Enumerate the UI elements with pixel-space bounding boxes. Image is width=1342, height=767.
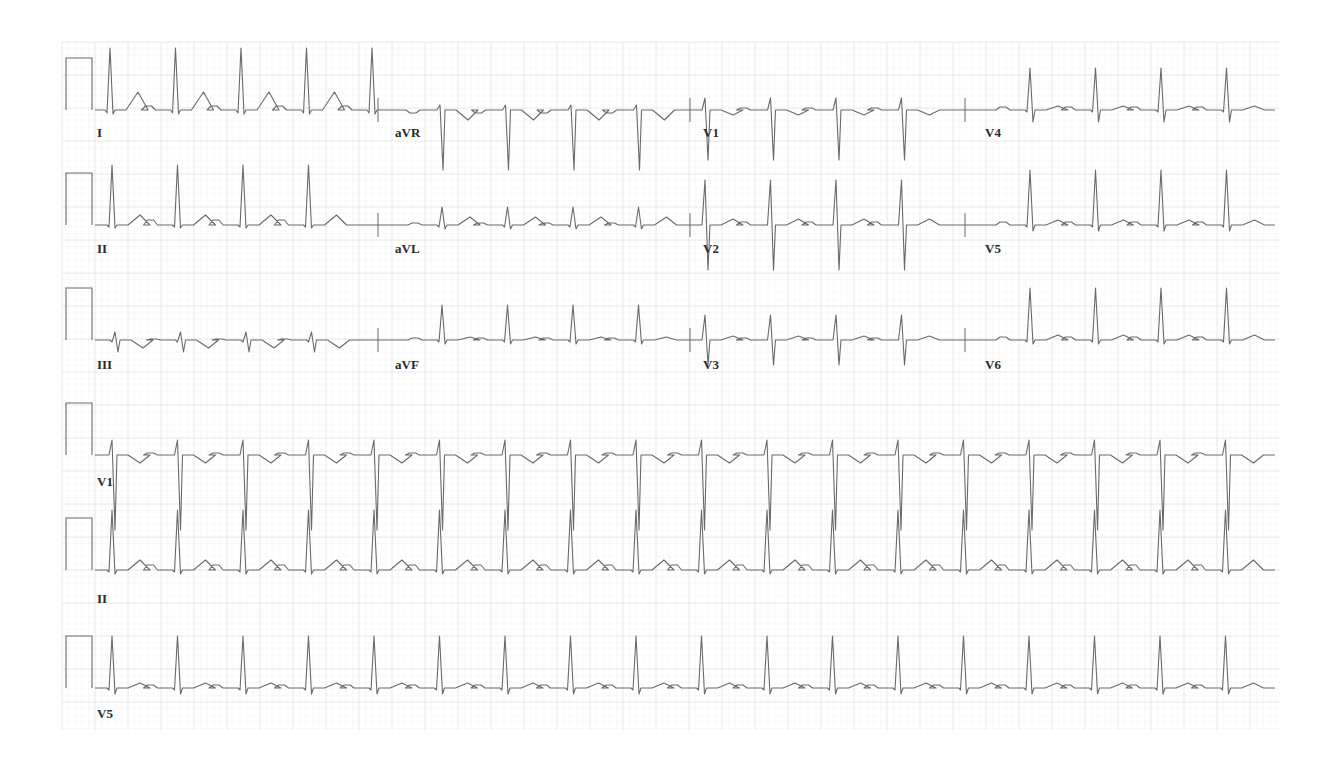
lead-trace-ii bbox=[95, 165, 378, 228]
calibration-pulse bbox=[66, 403, 92, 455]
lead-label: III bbox=[97, 357, 112, 373]
lead-label: V4 bbox=[985, 125, 1001, 141]
lead-trace-iii bbox=[95, 332, 378, 352]
lead-label: V3 bbox=[703, 357, 719, 373]
lead-label: aVR bbox=[395, 125, 420, 141]
calibration-pulses bbox=[66, 58, 92, 688]
calibration-pulse bbox=[66, 636, 92, 688]
lead-label: V1 bbox=[703, 125, 719, 141]
lead-label: II bbox=[97, 241, 107, 257]
lead-label: II bbox=[97, 591, 107, 607]
lead-label: aVF bbox=[395, 357, 419, 373]
lead-label: V6 bbox=[985, 357, 1001, 373]
lead-trace-i bbox=[95, 48, 378, 114]
lead-label: V5 bbox=[97, 706, 113, 722]
calibration-pulse bbox=[66, 518, 92, 570]
lead-label: aVL bbox=[395, 241, 420, 257]
ecg-grid bbox=[62, 42, 1280, 730]
lead-label: V2 bbox=[703, 241, 719, 257]
ecg-strip bbox=[0, 0, 1342, 767]
lead-label: V1 bbox=[97, 474, 113, 490]
lead-trace-v6 bbox=[965, 288, 1275, 344]
calibration-pulse bbox=[66, 58, 92, 110]
lead-label: I bbox=[97, 125, 102, 141]
lead-label: V5 bbox=[985, 241, 1001, 257]
